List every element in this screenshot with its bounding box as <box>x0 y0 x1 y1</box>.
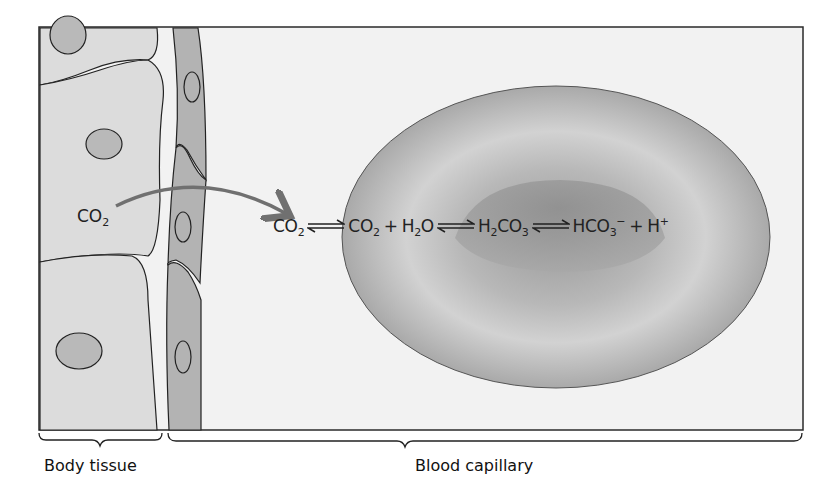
nucleus-icon <box>56 333 102 369</box>
carbonic-acid-equation: CO2 CO2 + H2O H2CO3 HCO3− + H+ <box>273 216 669 236</box>
tissue-cell-middle <box>40 60 163 262</box>
equilibrium-arrows-icon <box>437 219 475 233</box>
plus-sign: + <box>384 216 398 236</box>
term-h2co3: H2CO3 <box>478 216 529 236</box>
plus-sign: + <box>629 216 643 236</box>
term-hydrogen-ion: H+ <box>647 216 668 236</box>
body-tissue-bracket <box>39 433 162 446</box>
blood-capillary-bracket <box>168 433 802 447</box>
endothelial-cell-3 <box>167 263 201 430</box>
equilibrium-arrows-icon <box>307 219 345 233</box>
equilibrium-arrows-icon <box>532 219 570 233</box>
term-bicarbonate: HCO3− <box>573 216 626 236</box>
body-tissue-cells <box>40 28 163 430</box>
body-tissue-label: Body tissue <box>44 456 137 475</box>
tissue-co2-label: CO2 <box>77 206 109 226</box>
blood-capillary-label: Blood capillary <box>415 456 533 475</box>
term-co2-rbc: CO2 <box>348 216 379 236</box>
red-blood-cell <box>342 86 770 388</box>
term-co2-plasma: CO2 <box>273 216 304 236</box>
term-h2o: H2O <box>402 216 434 236</box>
nucleus-icon <box>50 16 86 54</box>
diagram-canvas <box>0 0 838 493</box>
nucleus-icon <box>86 129 122 159</box>
